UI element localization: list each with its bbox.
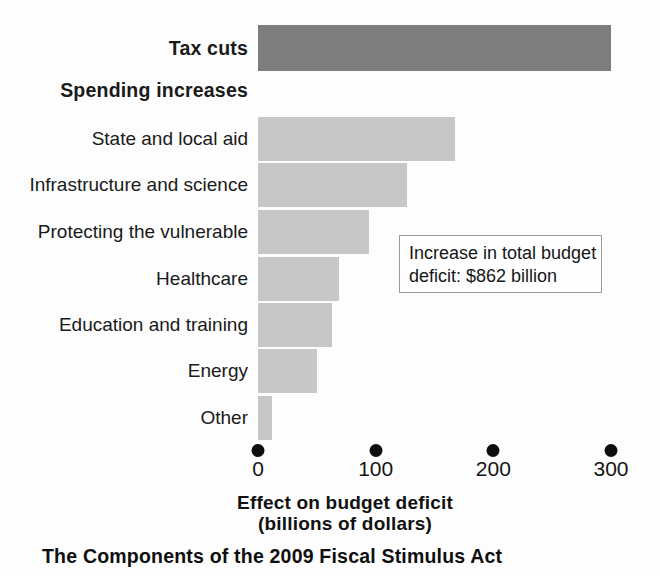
category-label: Healthcare — [156, 269, 248, 289]
category-label: Protecting the vulnerable — [38, 222, 248, 242]
bar — [258, 117, 455, 161]
axis-tick-dot — [605, 444, 618, 457]
annotation-line-1: Increase in total budget — [409, 242, 592, 265]
x-axis-title: Effect on budget deficit (billions of do… — [0, 492, 660, 534]
axis-tick-label: 300 — [593, 458, 628, 480]
bar — [258, 257, 339, 301]
axis-tick-label: 200 — [476, 458, 511, 480]
bar — [258, 25, 611, 71]
x-axis-title-line1: Effect on budget deficit — [237, 492, 453, 513]
axis-tick-dot — [487, 444, 500, 457]
category-label: Other — [200, 408, 248, 428]
bar — [258, 396, 272, 440]
axis-tick-dot — [369, 444, 382, 457]
annotation-callout: Increase in total budget deficit: $862 b… — [399, 235, 602, 293]
category-label: Tax cuts — [169, 38, 248, 58]
category-label: Infrastructure and science — [29, 175, 248, 195]
x-axis-title-line2: (billions of dollars) — [237, 513, 453, 534]
annotation-line-2: deficit: $862 billion — [409, 265, 592, 288]
bar — [258, 163, 407, 207]
bar — [258, 303, 332, 347]
axis-tick-dot — [252, 444, 265, 457]
category-label: Energy — [188, 361, 248, 381]
axis-tick-label: 100 — [358, 458, 393, 480]
category-label: Spending increases — [60, 80, 248, 100]
bar — [258, 349, 317, 393]
chart-caption: The Components of the 2009 Fiscal Stimul… — [42, 545, 502, 567]
chart-figure: Tax cutsSpending increasesState and loca… — [0, 0, 660, 576]
category-label: State and local aid — [92, 129, 248, 149]
axis-tick-label: 0 — [252, 458, 264, 480]
category-label: Education and training — [59, 315, 248, 335]
bar — [258, 210, 369, 254]
